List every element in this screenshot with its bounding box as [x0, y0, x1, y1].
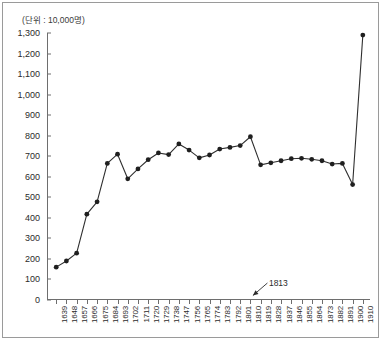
series-data-point — [105, 161, 110, 166]
x-axis-tick-label: 1657 — [80, 306, 89, 323]
series-data-point — [350, 182, 355, 187]
series-data-point — [258, 162, 263, 167]
x-axis-tick — [148, 300, 149, 304]
x-axis-tick — [169, 300, 170, 304]
series-data-point — [197, 155, 202, 160]
x-axis-tick — [128, 300, 129, 304]
series-data-point — [299, 156, 304, 161]
x-axis-tick-label: 1765 — [203, 306, 212, 323]
x-axis-tick-label: 1882 — [336, 306, 345, 323]
x-axis-tick — [66, 300, 67, 304]
x-axis-tick-label: 1666 — [90, 306, 99, 323]
y-axis-tick-label: 600 — [25, 172, 40, 182]
y-axis-tick-label: 500 — [25, 192, 40, 202]
x-axis-tick — [302, 300, 303, 304]
y-axis-tick-label: 800 — [25, 131, 40, 141]
chart-figure: (단위 : 10,000명) 0100200300400500600700800… — [0, 0, 382, 341]
series-data-point — [54, 265, 59, 270]
x-axis-tick — [210, 300, 211, 304]
x-axis-tick — [199, 300, 200, 304]
x-axis-tick — [138, 300, 139, 304]
series-data-point — [176, 142, 181, 147]
x-axis-tick — [342, 300, 343, 304]
series-data-point — [217, 147, 222, 152]
y-axis-tick-label: 1,200 — [17, 49, 40, 59]
y-axis-tick-label: 1,000 — [17, 90, 40, 100]
x-axis-tick — [179, 300, 180, 304]
x-axis-tick-label: 1792 — [234, 306, 243, 323]
x-axis-tick-label: 1900 — [356, 306, 365, 323]
series-data-point — [320, 158, 325, 163]
x-axis-tick-label: 1837 — [285, 306, 294, 323]
x-axis-tick — [56, 300, 57, 304]
series-data-point — [248, 134, 253, 139]
x-axis-tick — [332, 300, 333, 304]
x-axis-tick — [118, 300, 119, 304]
x-axis-tick-label: 1684 — [111, 306, 120, 323]
x-axis-tick-label: 1747 — [182, 306, 191, 323]
x-axis-tick — [250, 300, 251, 304]
x-axis-tick-label: 1675 — [101, 306, 110, 323]
x-axis-tick-label: 1729 — [162, 306, 171, 323]
series-data-point — [238, 143, 243, 148]
series-data-point — [115, 152, 120, 157]
series-data-point — [136, 167, 141, 172]
x-axis-tick-label: 1756 — [193, 306, 202, 323]
plot-area — [47, 33, 370, 300]
series-data-point — [207, 153, 212, 158]
y-axis-tick-label: 1,100 — [17, 69, 40, 79]
x-axis-tick — [312, 300, 313, 304]
y-axis-tick-label: 400 — [25, 213, 40, 223]
series-data-point — [166, 152, 171, 157]
population-line-series — [47, 33, 370, 300]
x-axis-tick-label: 1702 — [131, 306, 140, 323]
series-data-point — [340, 161, 345, 166]
x-axis-tick-label: 1648 — [70, 306, 79, 323]
x-axis-tick-label: 1910 — [366, 306, 375, 323]
series-data-point — [187, 148, 192, 153]
x-axis-tick — [220, 300, 221, 304]
x-axis-tick — [261, 300, 262, 304]
y-axis-tick-label: 1,300 — [17, 28, 40, 38]
series-data-point — [268, 160, 273, 165]
x-axis-tick-label: 1846 — [295, 306, 304, 323]
x-axis-tick — [87, 300, 88, 304]
x-axis-tick-label: 1873 — [326, 306, 335, 323]
series-data-point — [279, 158, 284, 163]
x-axis-tick — [291, 300, 292, 304]
x-axis-tick — [230, 300, 231, 304]
unit-caption: (단위 : 10,000명) — [22, 13, 85, 25]
x-axis-tick — [353, 300, 354, 304]
x-axis-tick-label: 1891 — [346, 306, 355, 323]
y-axis-tick-label: 700 — [25, 151, 40, 161]
x-axis-tick-label: 1855 — [305, 306, 314, 323]
series-data-point — [228, 145, 233, 150]
y-axis-labels: 01002003004005006007008009001,0001,1001,… — [0, 33, 45, 300]
x-axis-tick-label: 1819 — [264, 306, 273, 323]
x-axis-tick-label: 1738 — [172, 306, 181, 323]
series-data-point — [84, 212, 89, 217]
x-axis-tick-label: 1720 — [152, 306, 161, 323]
series-data-point — [309, 157, 314, 162]
series-data-point — [146, 157, 151, 162]
series-data-point — [64, 259, 69, 264]
y-axis-tick-label: 900 — [25, 110, 40, 120]
y-axis-tick-label: 200 — [25, 254, 40, 264]
x-axis-tick-label: 1783 — [223, 306, 232, 323]
x-axis-tick — [281, 300, 282, 304]
x-axis-tick-label: 1801 — [244, 306, 253, 323]
series-data-point — [156, 151, 161, 156]
series-line — [56, 35, 363, 267]
x-axis-tick-label: 1864 — [315, 306, 324, 323]
x-axis-tick — [189, 300, 190, 304]
series-data-point — [95, 199, 100, 204]
x-axis-tick-label: 1639 — [60, 306, 69, 323]
series-data-point — [360, 33, 365, 38]
x-axis-tick — [158, 300, 159, 304]
annotation-label-1813: 1813 — [269, 278, 288, 288]
y-axis-tick-label: 100 — [25, 274, 40, 284]
x-axis-tick-label: 1693 — [121, 306, 130, 323]
x-axis-tick — [97, 300, 98, 304]
x-axis-tick — [322, 300, 323, 304]
series-data-point — [74, 251, 79, 256]
